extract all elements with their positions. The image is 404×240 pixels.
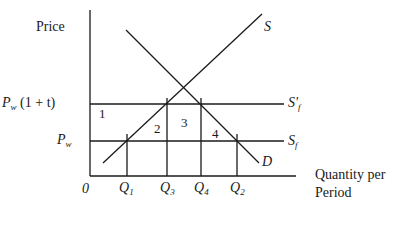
price-label-pw: Pw (57, 133, 72, 149)
q4-label: Q4 (194, 181, 209, 197)
demand-curve-label: D (262, 155, 272, 169)
supply-curve-label: S (264, 20, 271, 34)
q2-label: Q2 (230, 181, 245, 197)
price-label-pw-tariff: Pw (1 + t) (2, 96, 55, 112)
line-label-sub: f (295, 140, 298, 150)
region-4: 4 (212, 127, 219, 140)
demand-curve (126, 30, 259, 163)
foreign-supply-label: Sf (288, 134, 298, 150)
q-subscript: 3 (170, 187, 175, 197)
region-2: 2 (154, 122, 161, 135)
q-symbol: Q (194, 180, 204, 195)
price-symbol: P (57, 132, 66, 147)
price-subscript: w (66, 139, 72, 149)
x-axis-label-line2: Period (315, 186, 352, 200)
q-subscript: 1 (129, 187, 134, 197)
q-symbol: Q (230, 180, 240, 195)
line-label-sub: f (298, 102, 301, 112)
price-suffix: (1 + t) (20, 95, 55, 110)
q3-label: Q3 (160, 181, 175, 197)
region-1: 1 (99, 107, 106, 120)
line-label: S' (288, 95, 298, 110)
region-3: 3 (181, 116, 188, 129)
q-symbol: Q (160, 180, 170, 195)
line-label: S (288, 133, 295, 148)
price-subscript: w (11, 102, 17, 112)
price-symbol: P (2, 95, 11, 110)
origin-label: 0 (82, 182, 89, 196)
q-subscript: 4 (204, 187, 209, 197)
foreign-supply-tariff-label: S'f (288, 96, 301, 112)
x-axis-label-line1: Quantity per (315, 168, 385, 182)
q-subscript: 2 (240, 187, 245, 197)
q-symbol: Q (119, 180, 129, 195)
q1-label: Q1 (119, 181, 134, 197)
y-axis-label: Price (36, 20, 65, 34)
